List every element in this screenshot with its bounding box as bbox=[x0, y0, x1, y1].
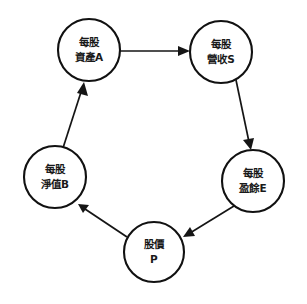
node-earnings-per-share[interactable] bbox=[222, 150, 284, 212]
arrow-bookvalue-to-assets bbox=[63, 82, 88, 148]
node-book-value-per-share[interactable] bbox=[24, 146, 86, 208]
node-assets-per-share[interactable] bbox=[58, 19, 120, 81]
cycle-diagram: 每股 資產A 每股 營收S 每股 盈餘E 股價 P 每股 淨值B bbox=[0, 0, 307, 304]
arrow-assets-to-sales bbox=[120, 46, 190, 56]
diagram-canvas bbox=[0, 0, 307, 304]
node-sales-per-share[interactable] bbox=[190, 21, 252, 83]
node-stock-price[interactable] bbox=[124, 222, 184, 282]
arrow-price-to-bookvalue bbox=[78, 204, 127, 237]
arrow-sales-to-earnings bbox=[236, 80, 254, 150]
arrow-earnings-to-price bbox=[183, 206, 234, 237]
